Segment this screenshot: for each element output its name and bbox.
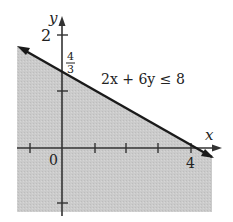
x-axis-label: x <box>205 126 214 144</box>
x-axis-arrow-icon <box>212 145 222 152</box>
inequality-graph: y 2 4 3 2x + 6y ≤ 8 x 0 4 <box>0 0 233 222</box>
y-intercept-numerator: 4 <box>67 50 74 63</box>
origin-label: 0 <box>49 152 58 168</box>
y-tick-label: 2 <box>41 26 51 45</box>
y-intercept-denominator: 3 <box>67 63 74 76</box>
x-tick-label: 4 <box>186 155 195 171</box>
inequality-label: 2x + 6y ≤ 8 <box>101 71 185 87</box>
y-axis-label: y <box>48 9 58 27</box>
y-axis-arrow-icon <box>59 16 66 26</box>
